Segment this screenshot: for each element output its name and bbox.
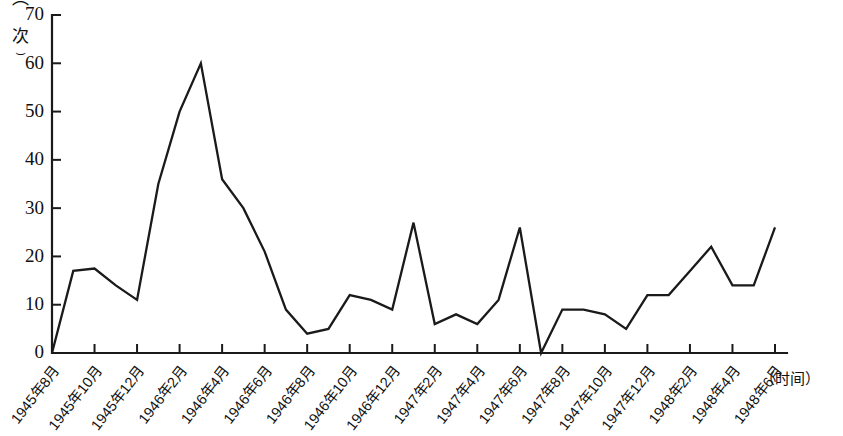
y-axis-tick-label: 60 <box>25 52 44 73</box>
y-axis-tick-label: 20 <box>25 245 44 266</box>
y-axis-tick-label: 50 <box>25 100 44 121</box>
y-axis-unit-paren-close: ⌣ <box>15 43 26 62</box>
x-axis-label-group: 1945年8月1945年10月1945年12月1946年2月1946年4月194… <box>8 363 786 433</box>
x-axis-caption: （时间） <box>760 370 820 387</box>
y-axis-tick-label: 0 <box>35 341 45 362</box>
y-axis-tick-group: 010203040506070 <box>25 3 61 362</box>
line-chart: ⌒ 次 ⌣ 010203040506070 1945年8月1945年10月194… <box>0 0 843 436</box>
y-axis-tick-label: 30 <box>25 197 44 218</box>
y-axis-tick-label: 40 <box>25 148 44 169</box>
x-axis-tick-group <box>52 344 775 353</box>
y-axis-tick-label: 10 <box>25 293 44 314</box>
chart-page: ⌒ 次 ⌣ 010203040506070 1945年8月1945年10月194… <box>0 0 843 436</box>
chart-axes <box>52 15 787 353</box>
y-axis-tick-label: 70 <box>25 3 44 24</box>
data-series-line <box>52 63 775 353</box>
